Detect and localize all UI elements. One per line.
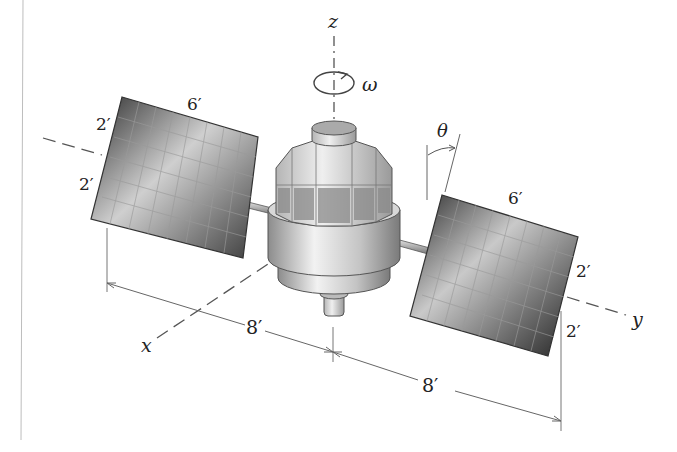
right-solar-panel — [410, 195, 578, 356]
left-solar-panel — [91, 97, 258, 258]
theta-label: θ — [437, 122, 448, 140]
diagram-canvas — [0, 0, 677, 452]
right-panel-lower-width-label: 2′ — [566, 323, 581, 340]
y-axis-dashed-right — [567, 297, 626, 315]
right-span-dimension-label: 8′ — [422, 376, 438, 395]
left-panel-lower-width-label: 2′ — [79, 176, 94, 193]
left-panel-upper-width-label: 2′ — [96, 116, 111, 133]
omega-label: ω — [362, 75, 378, 94]
page-margin-line — [21, 0, 23, 440]
right-panel-length-label: 6′ — [508, 190, 523, 207]
theta-panel-ref — [445, 134, 460, 192]
theta-arc — [428, 148, 455, 155]
satellite-diagram: z ω θ 6′ 2′ 2′ 6′ 2′ 2′ y x 8′ 8′ — [0, 0, 677, 452]
left-panel-length-label: 6′ — [187, 96, 202, 113]
x-axis-label: x — [141, 336, 152, 355]
dimension-right-8ft — [333, 352, 561, 421]
z-axis-label: z — [328, 12, 338, 31]
satellite-body — [268, 121, 400, 316]
y-axis-label: y — [632, 310, 643, 329]
right-panel-upper-width-label: 2′ — [576, 263, 591, 280]
y-axis-dashed-left — [43, 138, 102, 155]
left-span-dimension-label: 8′ — [246, 318, 262, 337]
